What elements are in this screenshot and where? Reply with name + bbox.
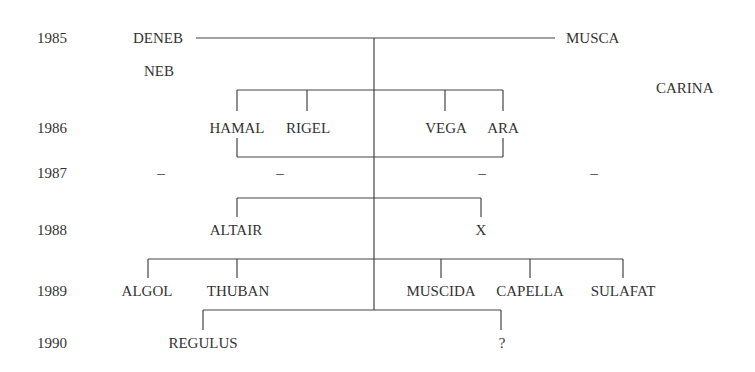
genealogy-diagram: 1985 1986 1987 1988 1989 1990 DENEB MUSC…	[0, 0, 755, 372]
node-vega: VEGA	[425, 121, 467, 136]
dash-1: –	[157, 166, 165, 181]
year-1989: 1989	[37, 284, 67, 299]
node-musca: MUSCA	[566, 31, 619, 46]
year-1985: 1985	[37, 31, 67, 46]
node-x: X	[476, 223, 487, 238]
node-ara: ARA	[487, 121, 519, 136]
node-thuban: THUBAN	[207, 284, 270, 299]
node-regulus: REGULUS	[168, 336, 237, 351]
node-hamal: HAMAL	[210, 121, 265, 136]
node-neb: NEB	[144, 64, 174, 79]
node-altair: ALTAIR	[210, 223, 262, 238]
node-deneb: DENEB	[133, 31, 183, 46]
connector-lines	[0, 0, 755, 372]
node-carina: CARINA	[656, 81, 714, 96]
node-algol: ALGOL	[122, 284, 173, 299]
dash-4: –	[590, 166, 598, 181]
year-1988: 1988	[37, 223, 67, 238]
dash-3: –	[478, 166, 486, 181]
node-unknown: ?	[499, 336, 506, 351]
node-rigel: RIGEL	[286, 121, 330, 136]
year-1986: 1986	[37, 121, 67, 136]
dash-2: –	[276, 166, 284, 181]
year-1987: 1987	[37, 166, 67, 181]
year-1990: 1990	[37, 336, 67, 351]
node-capella: CAPELLA	[496, 284, 564, 299]
node-muscida: MUSCIDA	[406, 284, 475, 299]
node-sulafat: SULAFAT	[591, 284, 656, 299]
